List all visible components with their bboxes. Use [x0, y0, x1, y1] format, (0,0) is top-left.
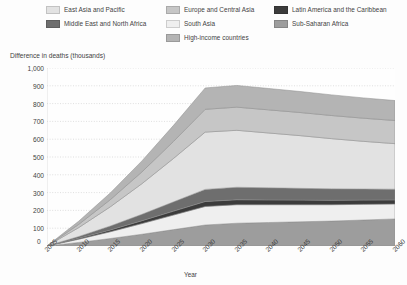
legend-label: High-income countries: [184, 34, 249, 42]
y-axis-tick-label: 1,000: [2, 65, 44, 72]
legend-item-sub-saharan-africa: Sub-Saharan Africa: [274, 20, 348, 28]
legend-swatch-icon: [166, 20, 180, 28]
x-axis-tick-labels: 2005201020152020202520302035204020452050…: [47, 246, 395, 282]
y-axis-tick-label: 600: [2, 136, 44, 143]
y-axis-tick-label: 900: [2, 82, 44, 89]
y-axis-tick-label: 700: [2, 118, 44, 125]
stacked-area-svg: [47, 68, 395, 246]
legend-swatch-icon: [166, 6, 180, 14]
legend-item-latin-america-and-the-caribbean: Latin America and the Caribbean: [274, 6, 387, 14]
legend-label: East Asia and Pacific: [64, 6, 125, 14]
legend-item-middle-east-and-north-africa: Middle East and North Africa: [46, 20, 146, 28]
y-axis-tick-label: 100: [2, 225, 44, 232]
y-axis-tick-label: 200: [2, 207, 44, 214]
legend-label: Sub-Saharan Africa: [292, 20, 348, 28]
legend-label: Middle East and North Africa: [64, 20, 146, 28]
legend-label: Europe and Central Asia: [184, 6, 254, 14]
y-axis-title: Difference in deaths (thousands): [10, 52, 105, 59]
y-axis-zero-label: 0: [37, 238, 41, 245]
y-axis-tick-labels: 1002003004005006007008009001,000: [0, 68, 44, 246]
x-axis-tick-label: 2005: [43, 238, 58, 253]
y-axis-tick-label: 800: [2, 100, 44, 107]
legend-swatch-icon: [274, 6, 288, 14]
y-axis-tick-label: 500: [2, 154, 44, 161]
legend-swatch-icon: [46, 6, 60, 14]
legend-label: Latin America and the Caribbean: [292, 6, 387, 14]
legend-swatch-icon: [46, 20, 60, 28]
legend-label: South Asia: [184, 20, 215, 28]
legend-item-south-asia: South Asia: [166, 20, 215, 28]
chart-container: East Asia and Pacific Europe and Central…: [0, 0, 407, 285]
legend-item-east-asia-and-pacific: East Asia and Pacific: [46, 6, 125, 14]
legend-item-high-income-countries: High-income countries: [166, 34, 249, 42]
y-axis-tick-label: 400: [2, 171, 44, 178]
legend-item-europe-and-central-asia: Europe and Central Asia: [166, 6, 254, 14]
legend-swatch-icon: [274, 20, 288, 28]
plot-area: [47, 68, 395, 246]
legend-swatch-icon: [166, 34, 180, 42]
y-axis-tick-label: 300: [2, 189, 44, 196]
chart-legend: East Asia and Pacific Europe and Central…: [0, 6, 407, 50]
